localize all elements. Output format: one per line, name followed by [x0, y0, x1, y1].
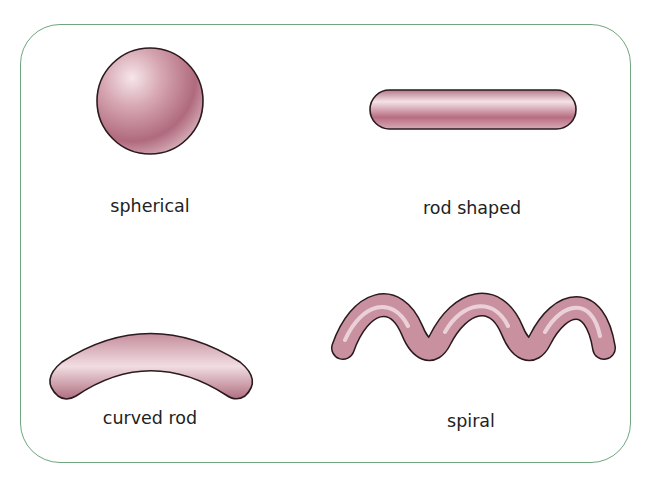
label-spherical: spherical	[110, 196, 189, 216]
bacteria-shapes-art	[0, 0, 648, 482]
rod-shape	[370, 90, 576, 129]
label-curved-rod: curved rod	[103, 408, 197, 428]
spiral-shape	[343, 305, 604, 350]
spherical-shape	[97, 48, 203, 154]
label-spiral: spiral	[447, 411, 495, 431]
curved-rod-shape	[50, 334, 253, 400]
label-rod-shaped: rod shaped	[423, 198, 521, 218]
